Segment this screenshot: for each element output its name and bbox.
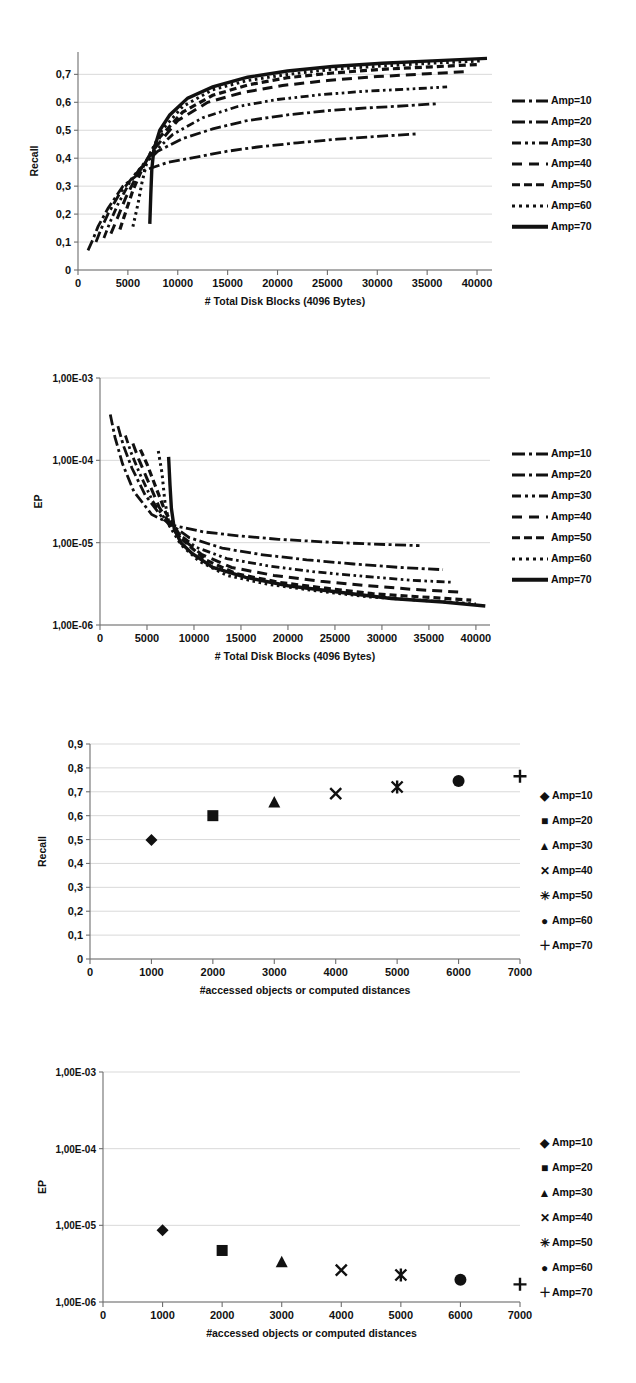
legend-swatch-dashdot-icon bbox=[512, 448, 548, 460]
x-tick-label: 25000 bbox=[312, 277, 343, 289]
y-tick-label: 0,9 bbox=[68, 738, 83, 750]
legend-item-amp-50[interactable]: Amp=50 bbox=[512, 527, 592, 548]
legend-recall-vs-accessed-objects: ◆Amp=10■Amp=20▲Amp=30✕Amp=40✳Amp=50●Amp=… bbox=[538, 783, 593, 958]
legend-marker-plus-icon: ＋ bbox=[538, 940, 551, 952]
data-point-amp-30 bbox=[268, 796, 280, 808]
legend-label: Amp=40 bbox=[552, 1212, 593, 1223]
legend-item-amp-20[interactable]: Amp=20 bbox=[512, 111, 592, 132]
legend-swatch-dashdot-icon bbox=[512, 95, 548, 107]
legend-item-amp-50[interactable]: ✳Amp=50 bbox=[538, 1230, 593, 1255]
legend-recall-vs-disk-blocks: Amp=10Amp=20Amp=30Amp=40Amp=50Amp=60Amp=… bbox=[512, 90, 592, 237]
legend-item-amp-30[interactable]: Amp=30 bbox=[512, 132, 592, 153]
figure-recall-vs-accessed-objects: 00,10,20,30,40,50,60,70,80,9010002000300… bbox=[0, 690, 636, 1030]
data-point-amp-70 bbox=[514, 770, 527, 783]
legend-marker-triangle-icon: ▲ bbox=[538, 1187, 551, 1199]
x-tick-label: 40000 bbox=[461, 632, 492, 644]
x-tick-label: 4000 bbox=[329, 1309, 353, 1321]
figure-ep-vs-disk-blocks: 1,00E-031,00E-041,00E-051,00E-0605000100… bbox=[0, 330, 636, 690]
legend-item-amp-10[interactable]: ◆Amp=10 bbox=[538, 783, 593, 808]
x-tick-label: 40000 bbox=[462, 277, 493, 289]
figure-recall-vs-disk-blocks: 00,10,20,30,40,50,60,7050001000015000200… bbox=[0, 0, 636, 330]
legend-swatch-dash-icon bbox=[512, 179, 548, 191]
x-tick-label: 10000 bbox=[179, 632, 210, 644]
y-tick-label: 0,7 bbox=[68, 786, 83, 798]
x-tick-label: 15000 bbox=[226, 632, 257, 644]
legend-item-amp-70[interactable]: Amp=70 bbox=[512, 216, 592, 237]
y-tick-label: 1,00E-03 bbox=[52, 373, 93, 384]
legend-item-amp-40[interactable]: ✕Amp=40 bbox=[538, 858, 593, 883]
legend-item-amp-40[interactable]: Amp=40 bbox=[512, 506, 592, 527]
y-axis-title: Recall bbox=[28, 145, 40, 176]
legend-item-amp-10[interactable]: Amp=10 bbox=[512, 443, 592, 464]
y-tick-label: 1,00E-03 bbox=[55, 1067, 96, 1078]
legend-ep-vs-disk-blocks: Amp=10Amp=20Amp=30Amp=40Amp=50Amp=60Amp=… bbox=[512, 443, 592, 590]
x-tick-label: 30000 bbox=[367, 632, 398, 644]
legend-marker-circle-icon: ● bbox=[538, 1262, 551, 1274]
y-tick-label: 0,7 bbox=[56, 68, 71, 80]
legend-label: Amp=10 bbox=[552, 1137, 593, 1148]
legend-item-amp-60[interactable]: ●Amp=60 bbox=[538, 1255, 593, 1280]
legend-marker-x-icon: ✕ bbox=[538, 865, 551, 877]
legend-item-amp-20[interactable]: ■Amp=20 bbox=[538, 808, 593, 833]
legend-item-amp-20[interactable]: Amp=20 bbox=[512, 464, 592, 485]
y-tick-label: 0,2 bbox=[56, 208, 71, 220]
legend-label: Amp=20 bbox=[552, 815, 593, 826]
legend-item-amp-40[interactable]: ✕Amp=40 bbox=[538, 1205, 593, 1230]
legend-item-amp-70[interactable]: ＋Amp=70 bbox=[538, 1280, 593, 1305]
series-line-amp-30 bbox=[104, 87, 447, 238]
legend-label: Amp=60 bbox=[551, 553, 592, 564]
legend-label: Amp=40 bbox=[551, 511, 592, 522]
legend-label: Amp=40 bbox=[552, 865, 593, 876]
legend-label: Amp=10 bbox=[552, 790, 593, 801]
legend-swatch-longdash-icon bbox=[512, 511, 548, 523]
x-tick-label: 7000 bbox=[508, 1309, 532, 1321]
data-point-amp-70 bbox=[514, 1278, 527, 1291]
y-tick-label: 0,5 bbox=[56, 124, 71, 136]
figure-ep-vs-accessed-objects: 1,00E-031,00E-041,00E-051,00E-0601000200… bbox=[0, 1030, 636, 1383]
legend-item-amp-60[interactable]: Amp=60 bbox=[512, 195, 592, 216]
legend-label: Amp=20 bbox=[551, 469, 592, 480]
legend-item-amp-30[interactable]: Amp=30 bbox=[512, 485, 592, 506]
legend-item-amp-20[interactable]: ■Amp=20 bbox=[538, 1155, 593, 1180]
legend-label: Amp=70 bbox=[551, 221, 592, 232]
series-line-amp-30 bbox=[125, 436, 452, 583]
legend-item-amp-30[interactable]: ▲Amp=30 bbox=[538, 833, 593, 858]
legend-item-amp-10[interactable]: Amp=10 bbox=[512, 90, 592, 111]
legend-item-amp-10[interactable]: ◆Amp=10 bbox=[538, 1130, 593, 1155]
legend-item-amp-40[interactable]: Amp=40 bbox=[512, 153, 592, 174]
legend-swatch-dashdotdot-icon bbox=[512, 490, 548, 502]
legend-swatch-dot-icon bbox=[512, 200, 548, 212]
x-tick-label: 1000 bbox=[139, 966, 163, 978]
legend-label: Amp=30 bbox=[551, 137, 592, 148]
data-point-amp-50 bbox=[392, 781, 403, 794]
data-point-amp-50 bbox=[395, 1268, 406, 1281]
x-tick-label: 0 bbox=[100, 1309, 106, 1321]
data-point-amp-30 bbox=[276, 1256, 288, 1268]
legend-label: Amp=50 bbox=[552, 890, 593, 901]
series-line-amp-60 bbox=[133, 61, 482, 227]
x-tick-label: 35000 bbox=[414, 632, 445, 644]
legend-marker-circle-icon: ● bbox=[538, 915, 551, 927]
x-tick-label: 7000 bbox=[508, 966, 532, 978]
legend-item-amp-50[interactable]: ✳Amp=50 bbox=[538, 883, 593, 908]
y-tick-label: 0,1 bbox=[56, 236, 71, 248]
legend-item-amp-70[interactable]: Amp=70 bbox=[512, 569, 592, 590]
x-tick-label: 15000 bbox=[212, 277, 243, 289]
series-line-amp-70 bbox=[169, 457, 486, 606]
legend-marker-triangle-icon: ▲ bbox=[538, 840, 551, 852]
legend-marker-diamond-icon: ◆ bbox=[538, 790, 551, 802]
y-axis-title: EP bbox=[36, 1180, 48, 1194]
series-line-amp-50 bbox=[140, 450, 471, 601]
legend-label: Amp=60 bbox=[552, 1262, 593, 1273]
x-axis-title: # Total Disk Blocks (4096 Bytes) bbox=[205, 295, 365, 307]
x-tick-label: 20000 bbox=[262, 277, 293, 289]
y-tick-label: 0,6 bbox=[56, 96, 71, 108]
legend-item-amp-30[interactable]: ▲Amp=30 bbox=[538, 1180, 593, 1205]
y-tick-label: 0,6 bbox=[68, 810, 83, 822]
legend-label: Amp=50 bbox=[551, 532, 592, 543]
legend-item-amp-60[interactable]: ●Amp=60 bbox=[538, 908, 593, 933]
data-point-amp-10 bbox=[157, 1224, 169, 1236]
legend-item-amp-60[interactable]: Amp=60 bbox=[512, 548, 592, 569]
legend-item-amp-70[interactable]: ＋Amp=70 bbox=[538, 933, 593, 958]
legend-item-amp-50[interactable]: Amp=50 bbox=[512, 174, 592, 195]
